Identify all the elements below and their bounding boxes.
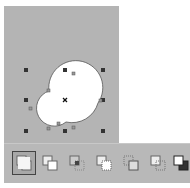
- shaping-toolbar: [4, 143, 190, 183]
- simplify-button[interactable]: [93, 152, 115, 174]
- drawing-canvas[interactable]: [4, 6, 119, 143]
- welded-shape[interactable]: [37, 61, 103, 126]
- weld-button[interactable]: [12, 151, 36, 175]
- back-minus-front-button[interactable]: [147, 152, 169, 174]
- weld-icon: [13, 152, 35, 174]
- boundary-button[interactable]: [170, 152, 190, 174]
- front-minus-back-icon: [120, 152, 142, 174]
- back-minus-front-icon: [147, 152, 169, 174]
- trim-button[interactable]: [39, 152, 61, 174]
- simplify-icon: [93, 152, 115, 174]
- trim-icon: [39, 152, 61, 174]
- intersect-button[interactable]: [66, 152, 88, 174]
- intersect-icon: [66, 152, 88, 174]
- boundary-icon: [170, 152, 190, 174]
- canvas-drawing[interactable]: [4, 6, 119, 143]
- front-minus-back-button[interactable]: [120, 152, 142, 174]
